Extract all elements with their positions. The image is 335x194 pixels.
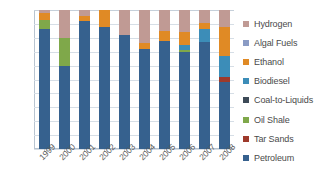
legend-item-hydrogen[interactable]: Hydrogen — [243, 14, 335, 33]
bar-2007[interactable] — [199, 10, 210, 149]
plot-wrapper: 100%90%80%70%60%50%40%30%20%10%0% 199920… — [34, 10, 234, 149]
bar-segment-hydrogen[interactable] — [59, 10, 70, 38]
bar-2002[interactable] — [99, 10, 110, 149]
bar-segment-petroleum[interactable] — [219, 82, 230, 149]
bar-segment-petroleum[interactable] — [119, 35, 130, 149]
bar-segment-tar-sands[interactable] — [219, 77, 230, 83]
bar-2006[interactable] — [179, 10, 190, 149]
legend-item-biodiesel[interactable]: Biodiesel — [243, 72, 335, 91]
bar-segment-biodiesel[interactable] — [199, 29, 210, 42]
legend-label: Biodiesel — [254, 76, 290, 86]
bar-segment-ethanol[interactable] — [79, 16, 90, 22]
bar-segment-petroleum[interactable] — [59, 66, 70, 149]
legend-swatch-icon — [243, 40, 249, 46]
bar-segment-ethanol[interactable] — [159, 31, 170, 41]
bar-segment-petroleum[interactable] — [199, 42, 210, 149]
bar-segment-biodiesel[interactable] — [179, 45, 190, 51]
bar-segment-hydrogen[interactable] — [139, 10, 150, 43]
legend-item-algal-fuels[interactable]: Algal Fuels — [243, 33, 335, 52]
bar-segment-ethanol[interactable] — [199, 23, 210, 30]
bar-segment-oil-shale[interactable] — [59, 38, 70, 66]
legend-swatch-icon — [243, 155, 249, 161]
bar-segment-ethanol[interactable] — [219, 27, 230, 56]
legend-swatch-icon — [243, 59, 249, 65]
bar-segment-petroleum[interactable] — [39, 29, 50, 149]
bar-segment-hydrogen[interactable] — [199, 10, 210, 23]
bar-2003[interactable] — [119, 10, 130, 149]
bar-segment-biodiesel[interactable] — [219, 56, 230, 77]
bar-segment-petroleum[interactable] — [179, 52, 190, 149]
bar-segment-hydrogen[interactable] — [119, 10, 130, 35]
bar-segment-hydrogen[interactable] — [39, 10, 50, 13]
legend-label: Algal Fuels — [254, 38, 297, 48]
legend-swatch-icon — [243, 117, 249, 123]
bar-segment-hydrogen[interactable] — [179, 10, 190, 32]
legend-item-petroleum[interactable]: Petroleum — [243, 148, 335, 167]
bar-segment-oil-shale[interactable] — [179, 50, 190, 51]
bar-segment-hydrogen[interactable] — [159, 10, 170, 31]
bar-2000[interactable] — [59, 10, 70, 149]
legend-label: Tar Sands — [254, 134, 294, 144]
legend-item-coal-to-liquids[interactable]: Coal-to-Liquids — [243, 91, 335, 110]
legend-label: Coal-to-Liquids — [254, 95, 313, 105]
bar-2001[interactable] — [79, 10, 90, 149]
bar-segment-ethanol[interactable] — [39, 13, 50, 20]
bar-segment-hydrogen[interactable] — [219, 10, 230, 27]
legend-swatch-icon — [243, 21, 249, 27]
bar-segment-petroleum[interactable] — [159, 41, 170, 149]
bar-segment-ethanol[interactable] — [179, 32, 190, 45]
legend-label: Oil Shale — [254, 115, 290, 125]
bar-1999[interactable] — [39, 10, 50, 149]
chart-legend: HydrogenAlgal FuelsEthanolBiodieselCoal-… — [243, 14, 335, 168]
bar-segment-petroleum[interactable] — [139, 49, 150, 149]
legend-swatch-icon — [243, 78, 249, 84]
bar-segment-hydrogen[interactable] — [79, 10, 90, 16]
legend-item-oil-shale[interactable]: Oil Shale — [243, 110, 335, 129]
legend-label: Petroleum — [254, 153, 294, 163]
bar-segment-ethanol[interactable] — [139, 43, 150, 49]
legend-label: Ethanol — [254, 57, 284, 67]
legend-item-ethanol[interactable]: Ethanol — [243, 52, 335, 71]
legend-swatch-icon — [243, 136, 249, 142]
bar-2005[interactable] — [159, 10, 170, 149]
bar-2004[interactable] — [139, 10, 150, 149]
legend-item-tar-sands[interactable]: Tar Sands — [243, 129, 335, 148]
legend-label: Hydrogen — [254, 19, 292, 29]
stacked-bar-chart: 100%90%80%70%60%50%40%30%20%10%0% 199920… — [0, 0, 335, 194]
bar-segment-ethanol[interactable] — [99, 10, 110, 27]
bar-segment-petroleum[interactable] — [79, 21, 90, 149]
bar-segment-petroleum[interactable] — [99, 27, 110, 149]
bar-segment-oil-shale[interactable] — [39, 20, 50, 30]
bar-2008[interactable] — [219, 10, 230, 149]
legend-swatch-icon — [243, 97, 249, 103]
